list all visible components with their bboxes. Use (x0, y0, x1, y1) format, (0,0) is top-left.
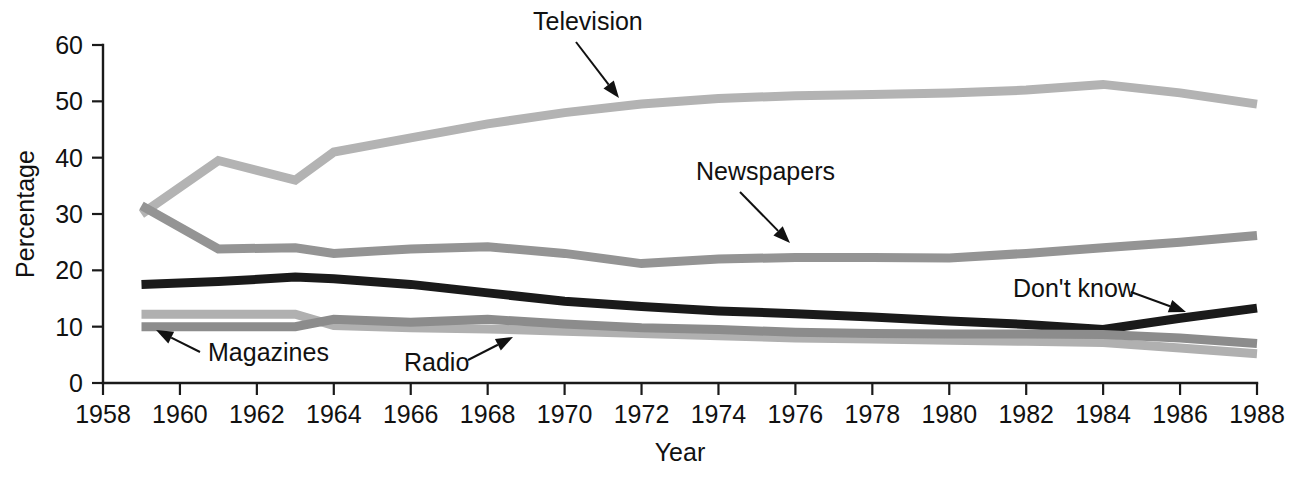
line-chart-svg: 0102030405060195819601962196419661968197… (0, 0, 1296, 481)
x-tick-label: 1978 (845, 400, 901, 428)
y-tick-label: 0 (69, 369, 83, 397)
annotation-label-radio: Radio (404, 348, 469, 376)
annotation-leader-television (576, 42, 609, 85)
annotation-arrowhead-television (603, 81, 619, 98)
x-tick-label: 1960 (152, 400, 208, 428)
y-tick-label: 30 (55, 200, 83, 228)
series-line-television (142, 84, 1258, 214)
x-tick-label: 1974 (691, 400, 747, 428)
annotation-arrowhead-magazines (156, 330, 174, 343)
series-line-newspapers (142, 206, 1258, 264)
annotation-leader-magazines (171, 338, 200, 352)
y-tick-label: 20 (55, 256, 83, 284)
annotation-label-television: Television (533, 7, 643, 35)
annotation-arrowhead-don-t-know (1168, 300, 1186, 312)
y-tick-label: 50 (55, 87, 83, 115)
x-tick-label: 1982 (998, 400, 1054, 428)
x-tick-label: 1986 (1152, 400, 1208, 428)
x-tick-label: 1980 (921, 400, 977, 428)
annotation-arrowhead-radio (495, 337, 513, 351)
annotation-label-don-t-know: Don't know (1013, 274, 1137, 302)
x-tick-label: 1968 (460, 400, 516, 428)
x-tick-label: 1962 (229, 400, 285, 428)
x-tick-label: 1988 (1229, 400, 1285, 428)
chart-container: 0102030405060195819601962196419661968197… (0, 0, 1296, 481)
x-tick-label: 1958 (75, 400, 131, 428)
annotation-leader-don-t-know (1131, 292, 1170, 306)
x-tick-label: 1976 (768, 400, 824, 428)
annotation-label-newspapers: Newspapers (696, 157, 835, 185)
x-axis-title: Year (655, 438, 706, 466)
chart-series-group (142, 84, 1258, 353)
y-tick-label: 10 (55, 313, 83, 341)
annotation-leader-radio (468, 345, 498, 360)
x-tick-label: 1972 (614, 400, 670, 428)
annotation-leader-newspapers (740, 192, 778, 231)
y-axis-title: Percentage (11, 150, 39, 278)
x-tick-label: 1984 (1075, 400, 1131, 428)
x-tick-label: 1970 (537, 400, 593, 428)
annotation-label-magazines: Magazines (208, 338, 329, 366)
y-tick-label: 40 (55, 144, 83, 172)
x-tick-label: 1964 (306, 400, 362, 428)
y-tick-label: 60 (55, 31, 83, 59)
x-tick-label: 1966 (383, 400, 439, 428)
